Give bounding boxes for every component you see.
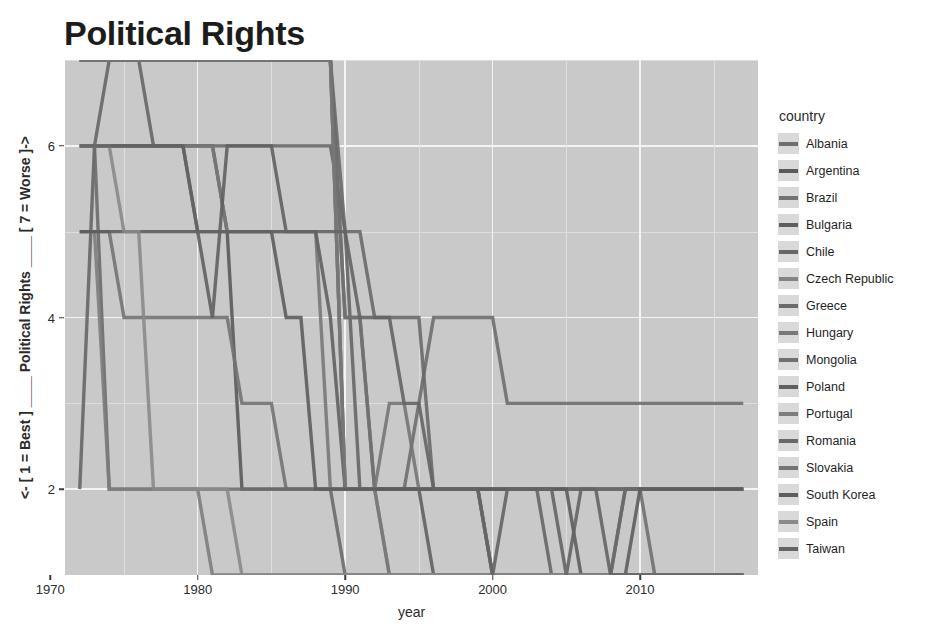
- x-tick-mark: [344, 575, 346, 580]
- x-tick-label: 2000: [478, 582, 507, 597]
- legend-item[interactable]: Portugal: [778, 400, 928, 427]
- y-tick-mark: [59, 145, 64, 147]
- legend-key-swatch: [778, 484, 799, 505]
- legend-key-swatch: [778, 322, 799, 343]
- legend: country AlbaniaArgentinaBrazilBulgariaCh…: [778, 108, 928, 562]
- legend-item-label: Chile: [806, 245, 835, 259]
- legend-item[interactable]: Slovakia: [778, 454, 928, 481]
- legend-item[interactable]: Romania: [778, 427, 928, 454]
- legend-key-swatch: [778, 511, 799, 532]
- legend-item-label: Portugal: [806, 407, 853, 421]
- chart-root: Political Rights 246 1970198019902000201…: [0, 0, 933, 636]
- x-tick-mark: [639, 575, 641, 580]
- legend-key-line: [779, 547, 798, 551]
- legend-key-swatch: [778, 457, 799, 478]
- legend-item-label: Romania: [806, 434, 856, 448]
- legend-item[interactable]: South Korea: [778, 481, 928, 508]
- legend-item-label: Hungary: [806, 326, 853, 340]
- y-axis-title: <- [ 1 = Best ] ____ Political Rights __…: [14, 60, 36, 575]
- legend-item[interactable]: Argentina: [778, 157, 928, 184]
- legend-item-label: Brazil: [806, 191, 837, 205]
- legend-item-label: Mongolia: [806, 353, 857, 367]
- legend-item[interactable]: Bulgaria: [778, 211, 928, 238]
- legend-key-swatch: [778, 295, 799, 316]
- legend-key-swatch: [778, 349, 799, 370]
- legend-item-label: Poland: [806, 380, 845, 394]
- legend-item-label: Bulgaria: [806, 218, 852, 232]
- legend-item[interactable]: Greece: [778, 292, 928, 319]
- legend-key-line: [779, 277, 798, 281]
- legend-item[interactable]: Spain: [778, 508, 928, 535]
- legend-title: country: [778, 108, 928, 124]
- legend-item-label: Greece: [806, 299, 847, 313]
- legend-key-line: [779, 466, 798, 470]
- legend-item-label: South Korea: [806, 488, 876, 502]
- plot-panel: [65, 60, 758, 575]
- legend-key-line: [779, 169, 798, 173]
- legend-key-line: [779, 493, 798, 497]
- legend-key-swatch: [778, 241, 799, 262]
- y-tick-label: 4: [33, 310, 55, 325]
- legend-key-line: [779, 412, 798, 416]
- x-tick-label: 2010: [626, 582, 655, 597]
- legend-item-label: Czech Republic: [806, 272, 894, 286]
- legend-key-line: [779, 385, 798, 389]
- legend-key-swatch: [778, 214, 799, 235]
- x-axis-title: year: [65, 604, 758, 620]
- x-tick-mark: [492, 575, 494, 580]
- chart-title: Political Rights: [64, 14, 305, 53]
- legend-key-swatch: [778, 268, 799, 289]
- x-tick-label: 1980: [183, 582, 212, 597]
- y-tick-mark: [59, 488, 64, 490]
- legend-key-swatch: [778, 376, 799, 397]
- legend-item-label: Taiwan: [806, 542, 845, 556]
- x-tick-mark: [197, 575, 199, 580]
- legend-item-label: Albania: [806, 137, 848, 151]
- legend-key-swatch: [778, 538, 799, 559]
- x-tick-label: 1970: [36, 582, 65, 597]
- legend-item[interactable]: Poland: [778, 373, 928, 400]
- legend-key-line: [779, 250, 798, 254]
- legend-key-line: [779, 223, 798, 227]
- legend-key-line: [779, 439, 798, 443]
- legend-item-label: Argentina: [806, 164, 860, 178]
- legend-item[interactable]: Taiwan: [778, 535, 928, 562]
- legend-key-swatch: [778, 187, 799, 208]
- legend-items: AlbaniaArgentinaBrazilBulgariaChileCzech…: [778, 130, 928, 562]
- y-tick-label: 6: [33, 138, 55, 153]
- legend-item[interactable]: Brazil: [778, 184, 928, 211]
- legend-item[interactable]: Albania: [778, 130, 928, 157]
- legend-item[interactable]: Hungary: [778, 319, 928, 346]
- legend-item-label: Slovakia: [806, 461, 853, 475]
- legend-key-line: [779, 196, 798, 200]
- legend-key-swatch: [778, 160, 799, 181]
- legend-key-swatch: [778, 430, 799, 451]
- legend-key-line: [779, 520, 798, 524]
- legend-key-swatch: [778, 403, 799, 424]
- legend-key-line: [779, 358, 798, 362]
- y-tick-label: 2: [33, 482, 55, 497]
- legend-key-line: [779, 304, 798, 308]
- series-line: [80, 60, 744, 489]
- series-line: [80, 60, 744, 489]
- legend-item-label: Spain: [806, 515, 838, 529]
- y-tick-mark: [59, 317, 64, 319]
- x-tick-mark: [50, 575, 52, 580]
- legend-item[interactable]: Czech Republic: [778, 265, 928, 292]
- line-series-layer: [65, 60, 758, 575]
- x-tick-label: 1990: [331, 582, 360, 597]
- legend-key-line: [779, 142, 798, 146]
- legend-item[interactable]: Mongolia: [778, 346, 928, 373]
- legend-item[interactable]: Chile: [778, 238, 928, 265]
- legend-key-swatch: [778, 133, 799, 154]
- legend-key-line: [779, 331, 798, 335]
